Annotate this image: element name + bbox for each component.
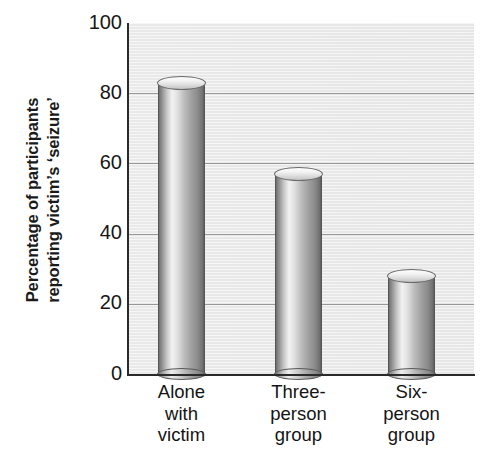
bar-cylinder-top bbox=[274, 167, 323, 181]
y-axis-line bbox=[127, 23, 129, 375]
x-axis-line bbox=[127, 374, 475, 376]
x-label-line-3: group bbox=[245, 424, 352, 446]
x-label-line-2: person bbox=[358, 403, 465, 425]
x-label-line-3: victim bbox=[128, 424, 235, 446]
x-label-line-1: Three- bbox=[245, 381, 352, 403]
x-label-line-3: group bbox=[358, 424, 465, 446]
y-axis-tick-labels: 100 80 60 40 20 0 bbox=[78, 0, 122, 475]
bar-alone-with-victim[interactable] bbox=[158, 76, 205, 374]
x-label-three-person-group: Three- person group bbox=[245, 381, 352, 446]
x-label-line-1: Alone bbox=[128, 381, 235, 403]
y-tick-100: 100 bbox=[78, 12, 122, 32]
bar-cylinder-body bbox=[275, 174, 322, 374]
x-label-line-1: Six- bbox=[358, 381, 465, 403]
y-tick-80: 80 bbox=[78, 82, 122, 102]
y-axis-title-line-2: reporting victim’s ‘seizure’ bbox=[43, 97, 64, 303]
bar-six-person-group[interactable] bbox=[388, 269, 435, 374]
y-axis-title-container: Percentage of participants reporting vic… bbox=[0, 0, 86, 400]
y-tick-0: 0 bbox=[78, 363, 122, 383]
x-label-alone-with-victim: Alone with victim bbox=[128, 381, 235, 446]
y-axis-title: Percentage of participants reporting vic… bbox=[22, 97, 64, 303]
bar-three-person-group[interactable] bbox=[275, 167, 322, 374]
x-label-line-2: person bbox=[245, 403, 352, 425]
x-label-line-2: with bbox=[128, 403, 235, 425]
y-tick-40: 40 bbox=[78, 222, 122, 242]
y-tick-20: 20 bbox=[78, 292, 122, 312]
y-tick-60: 60 bbox=[78, 152, 122, 172]
bar-cylinder-top bbox=[157, 76, 206, 90]
bar-cylinder-body bbox=[388, 276, 435, 374]
bar-chart-figure: Percentage of participants reporting vic… bbox=[0, 0, 490, 475]
y-axis-title-line-1: Percentage of participants bbox=[23, 98, 41, 303]
x-label-six-person-group: Six- person group bbox=[358, 381, 465, 446]
plot-area bbox=[128, 23, 474, 374]
bar-cylinder-top bbox=[387, 269, 436, 283]
bar-cylinder-body bbox=[158, 83, 205, 374]
